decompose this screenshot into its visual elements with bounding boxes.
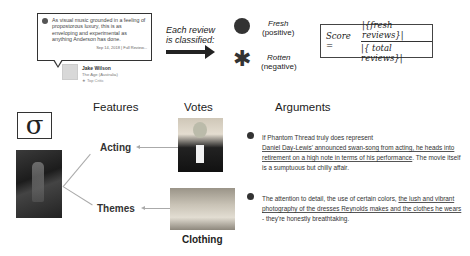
actor-face (193, 122, 207, 138)
rotten-label: Rotten (negative) (261, 53, 297, 71)
critic-publication: The Age (Australia) (82, 72, 118, 77)
arrow-left-icon (136, 145, 140, 149)
argument-acting-pre: If Phantom Thread truly does represent (262, 134, 373, 141)
sigma-symbol-box: σ (17, 112, 52, 139)
rotten-title: Rotten (261, 53, 297, 62)
connector-line-themes (62, 186, 92, 205)
poster-figure (32, 162, 44, 202)
review-quote: As visual music grounded in a feeling of… (52, 17, 145, 42)
connector-line-acting (63, 154, 91, 187)
classification-label: Each review is classified: (166, 25, 215, 45)
vote-arrow-acting (138, 147, 178, 148)
classification-line-2: is classified: (166, 35, 215, 45)
top-critic-label: Top Critic (87, 78, 104, 83)
votes-header: Votes (184, 101, 213, 113)
rotten-subtitle: (negative) (261, 62, 297, 71)
score-fraction: |{fresh reviews}| |{ total reviews}| (361, 20, 432, 63)
classification-line-1: Each review (166, 25, 215, 35)
actor-shirt (196, 145, 204, 163)
argument-themes: The attention to detail, the use of cert… (262, 194, 462, 224)
dresses-scene-photo (170, 188, 235, 230)
score-formula: Score = |{fresh reviews}| |{ total revie… (320, 24, 433, 58)
argument-bullet-icon (247, 193, 254, 200)
score-numerator: |{fresh reviews}| (361, 20, 432, 42)
features-header: Features (93, 101, 138, 113)
critic-avatar (62, 64, 78, 80)
argument-themes-pre: The attention to detail, the use of cert… (262, 195, 398, 202)
rotten-splat-icon: ✱ (233, 49, 251, 69)
fresh-title: Fresh (262, 19, 294, 28)
score-denominator: |{ total reviews}| (361, 42, 432, 63)
vote-arrow-themes (143, 208, 170, 209)
review-date-link[interactable]: Sep 14, 2018 | Full Review... (42, 45, 147, 50)
arrow-left-icon (141, 206, 145, 210)
argument-bullet-icon (247, 132, 254, 139)
fresh-subtitle: (positive) (262, 28, 294, 37)
arrow-right-icon (166, 50, 206, 54)
speech-tail-fill (54, 59, 62, 66)
critic-name: Jake Wilson (82, 65, 111, 71)
arguments-header: Arguments (275, 101, 331, 113)
fresh-tomato-icon (234, 18, 250, 34)
arrow-head-icon (205, 45, 215, 59)
review-quote-block: As visual music grounded in a feeling of… (42, 17, 147, 43)
score-lhs: Score = (326, 31, 358, 51)
feature-acting: Acting (100, 142, 131, 153)
critic-badge: ★ Top Critic (82, 78, 104, 83)
argument-acting: If Phantom Thread truly does represent D… (262, 133, 462, 173)
review-card: As visual music grounded in a feeling of… (37, 13, 152, 61)
fresh-label: Fresh (positive) (262, 19, 294, 37)
argument-themes-post: - they're honestly breathtaking. (262, 215, 349, 222)
feature-themes: Themes (97, 203, 135, 214)
tomato-icon (42, 18, 48, 24)
clothing-label: Clothing (182, 234, 223, 245)
